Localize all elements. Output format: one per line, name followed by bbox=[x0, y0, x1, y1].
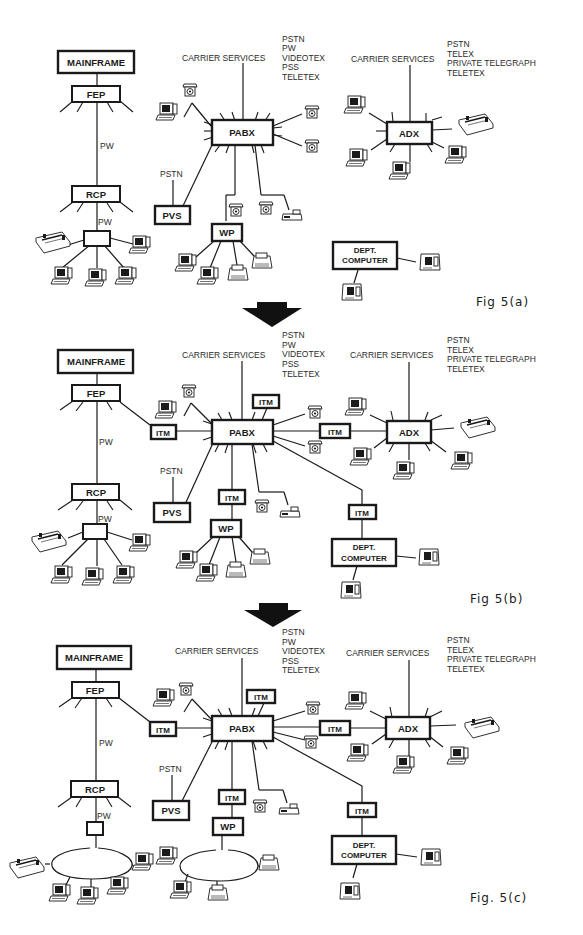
pabx-carrier-label-a: CARRIER SERVICES bbox=[182, 53, 266, 63]
itm-label: ITM bbox=[328, 725, 342, 734]
pvs-label-b: PVS bbox=[162, 507, 181, 518]
terminal-icon bbox=[342, 284, 362, 300]
adx-carrier-label-a: CARRIER SERVICES bbox=[351, 54, 435, 64]
adx-label-a: ADX bbox=[399, 128, 420, 139]
telephone-icon bbox=[253, 800, 267, 812]
figure-caption-b: Fig 5(b) bbox=[470, 592, 523, 606]
lan-ring-right-c bbox=[180, 850, 258, 881]
adx-carrier-label-c: CARRIER SERVICES bbox=[346, 648, 430, 658]
terminal-icon bbox=[129, 534, 150, 551]
svg-text:TELETEX: TELETEX bbox=[282, 72, 320, 82]
svg-text:PSTN: PSTN bbox=[447, 335, 470, 345]
lan-ring-left-c bbox=[52, 848, 132, 879]
telephone-icon bbox=[304, 736, 318, 748]
cluster-controller-a bbox=[84, 231, 110, 246]
fep-label-a: FEP bbox=[87, 89, 106, 100]
rcp-rays-b bbox=[58, 500, 132, 510]
terminal-icon bbox=[393, 462, 414, 479]
svg-text:PRIVATE TELEGRAPH: PRIVATE TELEGRAPH bbox=[447, 354, 536, 364]
pabx-services-a: PSTN PW VIDEOTEX PSS TELETEX bbox=[282, 34, 325, 82]
figure-5c: MAINFRAME FEP PW RCP PW ITM CARRIER SERV… bbox=[10, 627, 536, 905]
svg-text:PW: PW bbox=[282, 43, 296, 53]
dept-computer-label-line2-c: COMPUTER bbox=[341, 851, 387, 860]
pw-local-label-b: PW bbox=[98, 514, 112, 524]
pabx-label-c: PABX bbox=[229, 723, 255, 734]
dept-computer-label-line2-b: COMPUTER bbox=[341, 554, 387, 563]
terminal-icon bbox=[170, 881, 191, 898]
cluster-controller-b bbox=[83, 524, 107, 539]
itm-label: ITM bbox=[355, 509, 369, 518]
terminal-icon bbox=[447, 747, 468, 764]
terminal-icon bbox=[344, 96, 365, 113]
terminal-icon bbox=[77, 887, 98, 904]
svg-text:PSTN: PSTN bbox=[282, 627, 305, 637]
word-processor-icon bbox=[250, 549, 270, 564]
adx-label-b: ADX bbox=[399, 427, 420, 438]
terminal-icon bbox=[51, 267, 72, 284]
printer-icon bbox=[36, 232, 70, 253]
svg-text:PSTN: PSTN bbox=[282, 330, 305, 340]
terminal-icon bbox=[51, 566, 72, 583]
svg-text:PSTN: PSTN bbox=[447, 635, 470, 645]
word-processor-icon bbox=[252, 253, 272, 268]
itm-label: ITM bbox=[225, 494, 239, 503]
fax-icon bbox=[282, 210, 302, 220]
telephone-icon bbox=[308, 406, 322, 418]
terminal-icon bbox=[451, 452, 472, 469]
rcp-label-a: RCP bbox=[86, 189, 107, 200]
telephone-icon bbox=[259, 202, 273, 214]
pw-link-label-b: PW bbox=[99, 437, 113, 447]
down-arrow-icon bbox=[242, 302, 302, 327]
telephone-icon bbox=[183, 84, 197, 96]
pvs-pstn-label-c: PSTN bbox=[159, 764, 182, 774]
terminal-icon bbox=[107, 877, 128, 894]
rcp-rays-c bbox=[58, 797, 131, 807]
terminal-icon bbox=[340, 883, 360, 899]
fep-rays-b bbox=[60, 401, 112, 411]
mainframe-label-a: MAINFRAME bbox=[67, 57, 125, 68]
terminal-icon bbox=[153, 689, 174, 706]
down-arrow-icon bbox=[244, 603, 302, 627]
terminal-icon bbox=[85, 269, 106, 286]
terminal-icon bbox=[421, 849, 441, 865]
terminal-icon bbox=[350, 448, 371, 465]
pabx-label-b: PABX bbox=[229, 427, 255, 438]
itm-label: ITM bbox=[156, 429, 170, 438]
terminal-icon bbox=[132, 853, 153, 870]
pabx-label-a: PABX bbox=[229, 127, 255, 138]
telephone-icon bbox=[255, 500, 269, 512]
pvs-pstn-label-a: PSTN bbox=[160, 169, 183, 179]
printer-icon bbox=[459, 114, 493, 135]
telephone-icon bbox=[305, 106, 319, 118]
adx-services-c: PSTN TELEX PRIVATE TELEGRAPH TELETEX bbox=[447, 635, 536, 674]
pw-local-label-a: PW bbox=[98, 217, 112, 227]
terminal-icon bbox=[176, 551, 197, 568]
terminal-icon bbox=[196, 564, 217, 581]
wp-label-b: WP bbox=[218, 523, 234, 534]
fax-icon bbox=[279, 804, 299, 814]
telephone-icon bbox=[308, 441, 322, 453]
pabx-services-b: PSTN PW VIDEOTEX PSS TELETEX bbox=[282, 330, 325, 379]
wp-label-c: WP bbox=[220, 821, 236, 832]
terminal-icon bbox=[347, 744, 368, 761]
svg-text:TELETEX: TELETEX bbox=[282, 665, 320, 675]
terminal-icon bbox=[49, 884, 70, 901]
svg-text:PRIVATE TELEGRAPH: PRIVATE TELEGRAPH bbox=[447, 654, 536, 664]
printer-icon bbox=[32, 531, 66, 552]
word-processor-icon bbox=[208, 885, 228, 900]
pw-link-label-a: PW bbox=[100, 141, 114, 151]
word-processor-icon bbox=[259, 855, 279, 870]
pvs-label-c: PVS bbox=[161, 805, 180, 816]
dept-computer-label-line1-c: DEPT. bbox=[353, 841, 376, 850]
terminal-icon bbox=[115, 267, 136, 284]
adx-services-a: PSTN TELEX PRIVATE TELEGRAPH TELETEX bbox=[447, 39, 536, 78]
svg-text:VIDEOTEX: VIDEOTEX bbox=[282, 646, 325, 656]
itm-label: ITM bbox=[254, 693, 268, 702]
rcp-label-c: RCP bbox=[85, 784, 106, 795]
terminal-icon bbox=[341, 582, 361, 598]
fax-icon bbox=[280, 507, 300, 517]
printer-icon bbox=[461, 417, 495, 438]
pabx-services-c: PSTN PW VIDEOTEX PSS TELETEX bbox=[282, 627, 325, 675]
telephone-icon bbox=[155, 401, 176, 418]
telephone-icon bbox=[306, 702, 320, 714]
